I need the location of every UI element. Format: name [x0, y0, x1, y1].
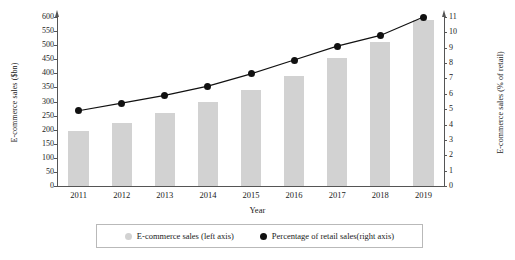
x-axis-label-2015: 2015 — [231, 191, 271, 200]
y-axis-right-arrow-icon — [442, 10, 446, 17]
y-axis-left-tick-label: 350 — [14, 83, 54, 91]
x-axis-label-2014: 2014 — [188, 191, 228, 200]
y-axis-left-tick-label: 0 — [14, 182, 54, 190]
y-axis-left-tick-label: 250 — [14, 112, 54, 120]
y-axis-right-tick-mark — [444, 186, 447, 187]
y-axis-left-arrow-icon — [55, 10, 59, 17]
y-axis-left-tick-label: 550 — [14, 27, 54, 35]
x-axis-label-2016: 2016 — [274, 191, 314, 200]
line-dot-icon — [260, 233, 267, 240]
x-axis-label-2019: 2019 — [403, 191, 443, 200]
y-axis-left-tick-label: 150 — [14, 140, 54, 148]
chart-legend: E-commerce sales (left axis)Percentage o… — [96, 224, 423, 248]
y-axis-right-tick-label: 9 — [449, 44, 475, 52]
line-marker-2012 — [118, 100, 125, 107]
x-axis-line — [57, 186, 445, 187]
x-axis-label-2012: 2012 — [102, 191, 142, 200]
y-axis-left-tick-mark — [54, 186, 57, 187]
y-axis-left-tick-label: 500 — [14, 41, 54, 49]
y-axis-right-tick-label: 4 — [449, 121, 475, 129]
x-axis-label-2011: 2011 — [59, 191, 99, 200]
line-marker-2018 — [377, 32, 384, 39]
legend-label: Percentage of retail sales(right axis) — [272, 231, 394, 241]
y-axis-left-tick-label: 100 — [14, 154, 54, 162]
y-axis-right-tick-label: 11 — [449, 13, 475, 21]
y-axis-left-tick-label: 400 — [14, 69, 54, 77]
y-axis-left-tick-label: 200 — [14, 126, 54, 134]
y-axis-left-tick-label: 50 — [14, 168, 54, 176]
y-axis-right-tick-label: 2 — [449, 151, 475, 159]
legend-item-bars[interactable]: E-commerce sales (left axis) — [125, 231, 234, 241]
bar-swatch-icon — [125, 233, 132, 240]
line-marker-2017 — [334, 43, 341, 50]
line-marker-2014 — [204, 83, 211, 90]
y-axis-left-tick-label: 300 — [14, 98, 54, 106]
y-axis-right-tick-label: 5 — [449, 105, 475, 113]
y-axis-right-tick-label: 0 — [449, 182, 475, 190]
x-axis-label-2018: 2018 — [360, 191, 400, 200]
y-axis-right-tick-label: 1 — [449, 167, 475, 175]
line-series — [57, 17, 445, 186]
line-marker-2019 — [420, 14, 427, 21]
chart-container: E-commerce sales ($bn) E-commerce sales … — [0, 0, 515, 260]
line-marker-2015 — [248, 70, 255, 77]
y-axis-right-tick-label: 8 — [449, 59, 475, 67]
x-axis-label-2013: 2013 — [145, 191, 185, 200]
legend-label: E-commerce sales (left axis) — [137, 231, 234, 241]
legend-item-line[interactable]: Percentage of retail sales(right axis) — [260, 231, 394, 241]
line-marker-2016 — [291, 57, 298, 64]
x-axis-label-2017: 2017 — [317, 191, 357, 200]
y-axis-left-tick-label: 450 — [14, 55, 54, 63]
y-axis-right-title: E-commerce sales (% of retail) — [496, 38, 505, 168]
plot-area: 050100150200250300350400450500550600 012… — [57, 17, 445, 186]
y-axis-right-tick-label: 3 — [449, 136, 475, 144]
y-axis-right-tick-label: 6 — [449, 90, 475, 98]
y-axis-right-tick-label: 7 — [449, 74, 475, 82]
line-path — [79, 17, 424, 111]
y-axis-right-tick-label: 10 — [449, 28, 475, 36]
y-axis-left-tick-label: 600 — [14, 13, 54, 21]
x-axis-title: Year — [0, 205, 515, 215]
